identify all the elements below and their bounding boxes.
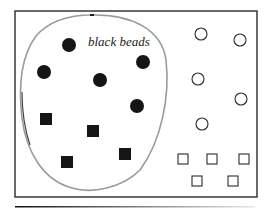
loop-top-mark — [90, 14, 94, 16]
black-square-bead — [119, 148, 131, 160]
white-square-bead — [207, 154, 217, 164]
black-square-bead — [87, 125, 99, 137]
white-circle-bead — [235, 93, 247, 105]
black-circle-bead — [130, 99, 144, 113]
black-squares — [40, 113, 131, 168]
black-circles — [37, 38, 150, 113]
white-circle-bead — [192, 73, 204, 85]
set-label: black beads — [88, 34, 150, 49]
white-circle-bead — [196, 118, 208, 130]
white-circles — [192, 28, 247, 130]
black-circle-bead — [37, 65, 51, 79]
white-square-bead — [239, 154, 249, 164]
black-square-bead — [40, 113, 52, 125]
white-circle-bead — [195, 28, 207, 40]
white-square-bead — [178, 154, 188, 164]
black-circle-bead — [93, 73, 107, 87]
black-square-bead — [61, 156, 73, 168]
black-circle-bead — [136, 55, 150, 69]
white-square-bead — [192, 176, 202, 186]
white-squares — [178, 154, 249, 186]
black-circle-bead — [62, 38, 76, 52]
bottom-rule — [15, 206, 255, 208]
white-square-bead — [228, 176, 238, 186]
beads-diagram: black beads — [0, 0, 272, 209]
white-circle-bead — [234, 34, 246, 46]
